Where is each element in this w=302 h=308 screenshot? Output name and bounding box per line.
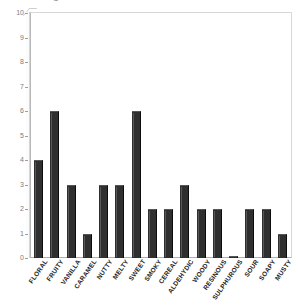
bar-slot (262, 13, 272, 258)
y-axis-tick-mark (25, 136, 28, 137)
bar (180, 185, 189, 259)
bar-slot (245, 13, 255, 258)
bar-highlight (198, 211, 199, 257)
y-axis-tick-mark (25, 209, 28, 210)
y-axis-tick-label: 3 (0, 181, 24, 188)
bar (99, 185, 108, 259)
bar-highlight (181, 187, 182, 258)
y-axis-tick-mark (25, 111, 28, 112)
bar-slot (148, 13, 158, 258)
y-axis-tick-label: 5 (0, 132, 24, 139)
bar-highlight (263, 211, 264, 257)
bars-layer (31, 13, 291, 258)
bar-highlight (84, 236, 85, 258)
bar-highlight (116, 187, 117, 258)
bar-slot (213, 13, 223, 258)
bar-slot (180, 13, 190, 258)
chart-title-clipped: C (52, 0, 92, 5)
bar-highlight (51, 113, 52, 257)
bar-highlight (214, 211, 215, 257)
y-axis-tick-mark (25, 185, 28, 186)
y-axis-tick-mark (25, 38, 28, 39)
bar-slot (197, 13, 207, 258)
y-axis-tick-label: 7 (0, 83, 24, 90)
bar (148, 209, 157, 258)
bar (34, 160, 43, 258)
bar (67, 185, 76, 259)
bar (262, 209, 271, 258)
bar (115, 185, 124, 259)
bar-highlight (35, 162, 36, 257)
bar-highlight (149, 211, 150, 257)
bar-highlight (133, 113, 134, 257)
y-axis-tick-label: 4 (0, 156, 24, 163)
bar-slot (278, 13, 288, 258)
bar (213, 209, 222, 258)
bar-slot (83, 13, 93, 258)
bar-slot (132, 13, 142, 258)
y-axis-tick-label: 8 (0, 58, 24, 65)
bar (197, 209, 206, 258)
bar (83, 234, 92, 259)
y-axis-tick-label: 1 (0, 230, 24, 237)
y-axis-tick-label: 2 (0, 205, 24, 212)
bar-slot (34, 13, 44, 258)
x-axis-labels: FLORALFRUITYVANILLACARAMELNUTTYMELTYSWEE… (0, 258, 302, 308)
bar (132, 111, 141, 258)
x-axis-tick-label: FLORAL (27, 258, 49, 285)
bar (245, 209, 254, 258)
bar (278, 234, 287, 259)
bar-chart-figure: C 012345678910 FLORALFRUITYVANILLACARAME… (0, 0, 302, 308)
y-axis-tick-mark (25, 62, 28, 63)
y-axis-tick-mark (25, 13, 28, 14)
bar-highlight (68, 187, 69, 258)
bar-highlight (279, 236, 280, 258)
bar (50, 111, 59, 258)
y-axis-tick-label: 10 (0, 9, 24, 16)
bar-slot (229, 13, 239, 258)
bar-slot (164, 13, 174, 258)
y-axis-tick-label: 9 (0, 34, 24, 41)
y-axis-tick-mark (25, 87, 28, 88)
y-axis-tick-label: 6 (0, 107, 24, 114)
bar-slot (99, 13, 109, 258)
bar-slot (67, 13, 77, 258)
y-axis-tick-mark (25, 234, 28, 235)
bar (164, 209, 173, 258)
y-axis-tick-mark (25, 160, 28, 161)
bar-highlight (246, 211, 247, 257)
bar-slot (50, 13, 60, 258)
bar-highlight (165, 211, 166, 257)
bar-slot (115, 13, 125, 258)
bar-highlight (100, 187, 101, 258)
